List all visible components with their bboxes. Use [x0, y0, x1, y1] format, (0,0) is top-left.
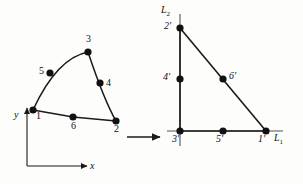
edge-3-5-1 — [33, 52, 88, 110]
node-label-4: 4 — [106, 78, 111, 88]
line-label-L1-sub: 1 — [280, 138, 284, 146]
y-axis-label: y — [14, 110, 18, 120]
node-label-3-prime: 3' — [172, 134, 179, 144]
x-axis-label: x — [90, 161, 94, 171]
node-label-3: 3 — [86, 34, 91, 44]
node-4 — [96, 79, 103, 86]
line-label-L2-sub: 2 — [167, 10, 171, 18]
figure-canvas: 1 2 3 4 5 6 y x 2' 4' 3' 5' 1' 6' L2 L1 — [0, 0, 303, 184]
right-element-group — [167, 14, 283, 146]
node-3 — [84, 48, 91, 55]
node-5 — [46, 69, 53, 76]
node-label-5: 5 — [39, 66, 44, 76]
node-label-5-prime: 5' — [216, 134, 223, 144]
node-6-prime — [219, 75, 226, 82]
node-2-prime — [176, 24, 183, 31]
node-label-6: 6 — [71, 121, 76, 131]
node-label-4-prime: 4' — [163, 72, 170, 82]
node-label-2: 2 — [114, 124, 119, 134]
edge-2-4-3 — [88, 52, 116, 121]
node-label-1: 1 — [36, 111, 41, 121]
line-label-L2: L2 — [161, 5, 170, 18]
line-label-L1: L1 — [274, 133, 283, 146]
node-label-6-prime: 6' — [229, 71, 236, 81]
node-label-1-prime: 1' — [258, 134, 265, 144]
figure-graphics — [0, 0, 303, 184]
node-4-prime — [176, 75, 183, 82]
node-label-2-prime: 2' — [164, 21, 171, 31]
